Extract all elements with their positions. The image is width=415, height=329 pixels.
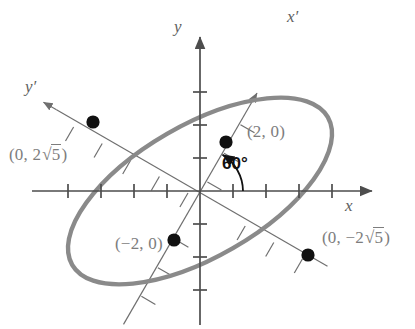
y-prime-axis-label: y′	[25, 78, 36, 95]
plot-canvas	[0, 0, 415, 329]
y-axis-label: y	[174, 18, 182, 35]
angle-label: 60°	[222, 155, 248, 172]
radical-lower-right: √5	[364, 229, 384, 246]
point-neg2-0	[167, 233, 180, 246]
radical-upper-left: √5	[41, 146, 61, 163]
label-vertex-left: (−2, 0)	[115, 235, 163, 252]
point-2-0	[219, 135, 232, 148]
point-0-neg2root5	[301, 248, 314, 261]
label-lower-right-radicand: 5	[373, 227, 384, 247]
label-vertex-lower-right: (0, −2√5)	[322, 229, 390, 246]
y-prime-ticks	[66, 127, 303, 273]
x-axis	[32, 184, 372, 198]
x-prime-axis	[124, 93, 258, 324]
label-upper-left-close: )	[61, 145, 67, 164]
label-lower-right-close: )	[384, 228, 390, 247]
x-axis-label: x	[345, 197, 353, 214]
x-prime-axis-label: x′	[287, 8, 298, 25]
y-axis	[193, 37, 207, 325]
primary-axes-group	[32, 37, 372, 325]
label-vertex-upper-left: (0, 2√5)	[9, 146, 67, 163]
point-0-2root5	[86, 115, 99, 128]
ellipse-rotation-figure: x′ y′ y x 60° (2, 0) (−2, 0) (0, 2√5) (0…	[0, 0, 415, 329]
label-upper-left-radicand: 5	[51, 144, 62, 164]
label-lower-right-open: (0, −2	[322, 228, 364, 247]
label-vertex-right: (2, 0)	[247, 123, 285, 140]
label-upper-left-open: (0, 2	[9, 145, 41, 164]
